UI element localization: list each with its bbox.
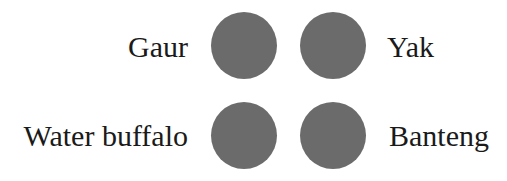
dot-yak <box>300 12 366 79</box>
label-yak: Yak <box>387 32 434 62</box>
dot-banteng <box>300 102 366 169</box>
label-gaur: Gaur <box>128 32 188 62</box>
dot-water-buffalo <box>211 102 277 169</box>
label-water-buffalo: Water buffalo <box>24 121 188 151</box>
dot-gaur <box>211 12 277 79</box>
label-banteng: Banteng <box>389 121 489 151</box>
